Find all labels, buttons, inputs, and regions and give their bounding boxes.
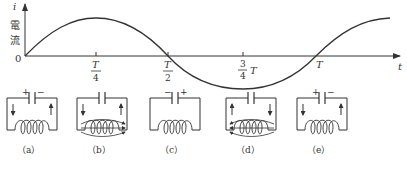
circuit-label-b: （b） [87,145,111,155]
inductor-coil [15,120,49,134]
cap-plate-right-sign: − [327,87,335,97]
inductor-coil [234,120,268,134]
circuit-b: （b） [77,92,127,155]
y-axis-symbol: i [13,1,16,12]
inductor-coil [85,120,119,134]
svg-text:2: 2 [165,73,171,83]
circuit-a: + − （a） [7,87,57,155]
circuit-c: − + （c） [150,87,200,155]
circuit-label-a: （a） [17,145,40,155]
y-axis-label-1: 電 [10,20,20,31]
cap-plate-right-sign: − [37,87,45,97]
circuit-label-d: （d） [236,145,260,155]
current-curve [25,18,390,89]
svg-text:4: 4 [93,73,99,83]
cap-plate-left-sign: + [22,87,30,97]
svg-text:T: T [250,65,258,76]
cap-plate-left-sign: − [164,87,172,97]
y-axis-label-2: 流 [10,34,20,46]
circuit-label-e: （e） [307,145,330,155]
inductor-coil [305,120,339,134]
tick-label-t: T [316,59,324,70]
svg-text:4: 4 [240,71,246,81]
origin-label: 0 [15,53,21,64]
tick-label-t-half: T 2 [163,59,173,83]
tick-label-t-quarter: T 4 [91,59,101,83]
svg-text:T: T [92,59,100,70]
x-axis-symbol: t [398,61,403,72]
lc-oscillation-diagram: i 電 流 0 t T 4 T 2 3 4 T T + − （a） [0,0,407,169]
cap-plate-right-sign: + [180,87,188,97]
circuit-e: + − （e） [297,87,347,155]
circuit-d: （d） [226,92,276,155]
tick-label-t-three-quarter: 3 4 T [238,59,258,81]
cap-plate-left-sign: + [312,87,320,97]
inductor-coil [158,120,192,134]
svg-text:3: 3 [240,59,246,69]
circuit-label-c: （c） [160,145,183,155]
svg-text:T: T [164,59,172,70]
axes [25,4,400,56]
